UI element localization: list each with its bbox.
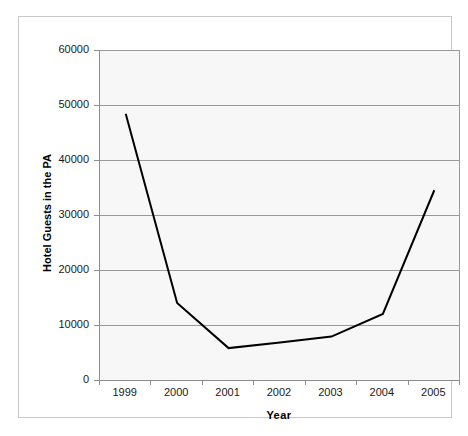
y-tick-label: 30000 <box>25 209 89 220</box>
y-tick-mark <box>94 105 99 106</box>
series-line-hotel-guests <box>126 114 435 348</box>
chart-container: 0100002000030000400005000060000 19992000… <box>0 0 468 436</box>
x-tick-label: 2005 <box>405 387 461 398</box>
x-tick-mark <box>253 381 254 385</box>
y-tick-mark <box>94 160 99 161</box>
x-tick-mark <box>356 381 357 385</box>
y-tick-label: 60000 <box>25 44 89 55</box>
x-tick-label: 2000 <box>148 387 204 398</box>
x-tick-mark <box>150 381 151 385</box>
x-tick-label: 2002 <box>251 387 307 398</box>
x-tick-mark <box>202 381 203 385</box>
y-tick-label: 0 <box>25 374 89 385</box>
y-tick-label: 40000 <box>25 154 89 165</box>
data-series-line <box>126 114 435 348</box>
y-tick-mark <box>94 270 99 271</box>
x-tick-mark <box>99 381 100 385</box>
x-tick-mark <box>305 381 306 385</box>
x-tick-label: 1999 <box>97 387 153 398</box>
y-tick-mark <box>94 50 99 51</box>
y-tick-label: 20000 <box>25 264 89 275</box>
x-tick-label: 2001 <box>200 387 256 398</box>
plot-svg <box>100 50 460 380</box>
y-axis-ticks: 0100002000030000400005000060000 <box>19 17 99 436</box>
y-axis-title: Hotel Guests in the PA <box>41 123 53 303</box>
x-tick-label: 2003 <box>302 387 358 398</box>
plot-area <box>99 50 460 381</box>
x-tick-mark <box>459 381 460 385</box>
chart-frame: 0100002000030000400005000060000 19992000… <box>18 16 452 418</box>
y-tick-label: 10000 <box>25 319 89 330</box>
x-tick-label: 2004 <box>354 387 410 398</box>
x-axis-title: Year <box>99 409 459 421</box>
y-tick-mark <box>94 215 99 216</box>
y-tick-mark <box>94 325 99 326</box>
x-tick-mark <box>408 381 409 385</box>
y-tick-label: 50000 <box>25 99 89 110</box>
